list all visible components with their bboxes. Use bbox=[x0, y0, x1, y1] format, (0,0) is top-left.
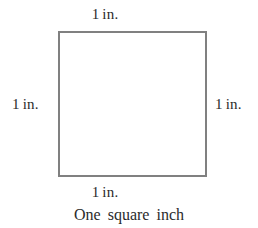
dimension-label-bottom: 1in. bbox=[0, 185, 258, 200]
square-inch-figure: 1in. 1in. 1in. 1in. One square inch bbox=[0, 0, 258, 228]
figure-caption: One square inch bbox=[0, 206, 258, 224]
dimension-label-top: 1in. bbox=[0, 7, 258, 22]
dimension-label-left-unit: in. bbox=[23, 96, 39, 112]
dimension-label-right-value: 1 bbox=[215, 96, 223, 112]
dimension-label-bottom-value: 1 bbox=[92, 184, 100, 200]
dimension-label-left-value: 1 bbox=[12, 96, 20, 112]
dimension-label-right: 1in. bbox=[215, 97, 242, 112]
dimension-label-top-unit: in. bbox=[102, 6, 118, 22]
unit-square-shape bbox=[58, 31, 207, 177]
dimension-label-left: 1in. bbox=[12, 97, 39, 112]
dimension-label-right-unit: in. bbox=[226, 96, 242, 112]
dimension-label-bottom-unit: in. bbox=[102, 184, 118, 200]
dimension-label-top-value: 1 bbox=[92, 6, 100, 22]
